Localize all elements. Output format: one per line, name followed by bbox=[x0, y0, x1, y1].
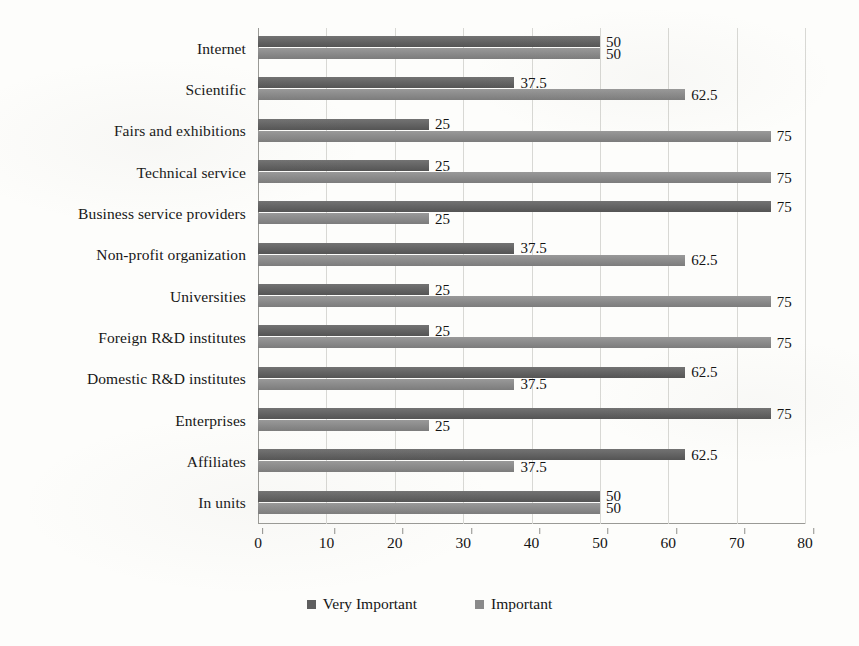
bar-row: Technical service2575 bbox=[258, 152, 805, 193]
bar-value-label: 25 bbox=[435, 417, 450, 434]
bar-value-label: 62.5 bbox=[691, 252, 717, 269]
bar-row: Fairs and exhibitions2575 bbox=[258, 111, 805, 152]
bar-shading bbox=[258, 172, 771, 183]
bar-value-label: 50 bbox=[606, 45, 621, 62]
bar-value-label: 75 bbox=[777, 405, 792, 422]
bar-very-important[interactable]: 37.5 bbox=[258, 77, 514, 88]
bar-value-label: 37.5 bbox=[520, 376, 546, 393]
bar-important[interactable]: 75 bbox=[258, 131, 771, 142]
bar-very-important[interactable]: 50 bbox=[258, 491, 600, 502]
plot-area: Internet5050Scientific37.562.5Fairs and … bbox=[258, 28, 805, 524]
x-tick-label: 40 bbox=[524, 534, 540, 552]
bar-very-important[interactable]: 37.5 bbox=[258, 243, 514, 254]
legend-label: Important bbox=[491, 595, 552, 613]
x-tick-mark bbox=[471, 528, 472, 534]
x-tick-label: 60 bbox=[661, 534, 677, 552]
x-tick-label: 80 bbox=[797, 534, 813, 552]
bar-shading bbox=[258, 243, 514, 254]
bar-shading bbox=[258, 491, 600, 502]
category-label: Affiliates bbox=[187, 453, 246, 471]
bar-shading bbox=[258, 325, 429, 336]
bar-important[interactable]: 75 bbox=[258, 172, 771, 183]
bar-value-label: 75 bbox=[777, 198, 792, 215]
x-tick-mark bbox=[813, 528, 814, 534]
category-label: Internet bbox=[197, 40, 246, 58]
bar-shading bbox=[258, 77, 514, 88]
bar-shading bbox=[258, 131, 771, 142]
bar-very-important[interactable]: 25 bbox=[258, 284, 429, 295]
bar-shading bbox=[258, 119, 429, 130]
bar-important[interactable]: 37.5 bbox=[258, 379, 514, 390]
bar-very-important[interactable]: 75 bbox=[258, 201, 771, 212]
x-tick-mark bbox=[403, 528, 404, 534]
bar-shading bbox=[258, 201, 771, 212]
bar-row: In units5050 bbox=[258, 483, 805, 524]
category-label: Domestic R&D institutes bbox=[87, 370, 246, 388]
bar-row: Scientific37.562.5 bbox=[258, 69, 805, 110]
category-label: Non-profit organization bbox=[96, 246, 246, 264]
bar-row: Foreign R&D institutes2575 bbox=[258, 317, 805, 358]
bar-value-label: 50 bbox=[606, 500, 621, 517]
x-tick-label: 20 bbox=[387, 534, 403, 552]
category-label: Scientific bbox=[186, 81, 246, 99]
chart-legend: Very ImportantImportant bbox=[0, 595, 859, 613]
bar-shading bbox=[258, 367, 685, 378]
category-label: Fairs and exhibitions bbox=[114, 122, 246, 140]
x-tick-label: 10 bbox=[319, 534, 335, 552]
bar-value-label: 75 bbox=[777, 334, 792, 351]
bar-important[interactable]: 25 bbox=[258, 420, 429, 431]
bar-very-important[interactable]: 50 bbox=[258, 36, 600, 47]
category-label: Enterprises bbox=[175, 412, 246, 430]
bar-important[interactable]: 75 bbox=[258, 337, 771, 348]
bar-row: Enterprises7525 bbox=[258, 400, 805, 441]
x-tick-mark bbox=[539, 528, 540, 534]
bar-value-label: 62.5 bbox=[691, 446, 717, 463]
bar-shading bbox=[258, 461, 514, 472]
legend-swatch-icon bbox=[307, 600, 316, 609]
bar-important[interactable]: 75 bbox=[258, 296, 771, 307]
category-label: Foreign R&D institutes bbox=[98, 329, 246, 347]
bar-value-label: 62.5 bbox=[691, 364, 717, 381]
bar-row: Non-profit organization37.562.5 bbox=[258, 235, 805, 276]
bar-important[interactable]: 62.5 bbox=[258, 89, 685, 100]
category-label: Technical service bbox=[137, 164, 246, 182]
bar-shading bbox=[258, 408, 771, 419]
bar-shading bbox=[258, 36, 600, 47]
bar-shading bbox=[258, 379, 514, 390]
bar-very-important[interactable]: 62.5 bbox=[258, 449, 685, 460]
bar-row: Affiliates62.537.5 bbox=[258, 441, 805, 482]
legend-item-very-important[interactable]: Very Important bbox=[307, 595, 417, 613]
bar-row: Domestic R&D institutes62.537.5 bbox=[258, 359, 805, 400]
x-tick-mark bbox=[676, 528, 677, 534]
bar-important[interactable]: 37.5 bbox=[258, 461, 514, 472]
bar-value-label: 25 bbox=[435, 210, 450, 227]
x-tick-mark bbox=[262, 528, 263, 534]
bar-important[interactable]: 62.5 bbox=[258, 255, 685, 266]
bar-value-label: 75 bbox=[777, 169, 792, 186]
bar-shading bbox=[258, 449, 685, 460]
bar-important[interactable]: 50 bbox=[258, 48, 600, 59]
bar-value-label: 75 bbox=[777, 128, 792, 145]
x-tick-mark bbox=[608, 528, 609, 534]
bar-shading bbox=[258, 48, 600, 59]
bar-important[interactable]: 25 bbox=[258, 213, 429, 224]
bar-shading bbox=[258, 503, 600, 514]
bar-value-label: 62.5 bbox=[691, 86, 717, 103]
bar-shading bbox=[258, 213, 429, 224]
bar-important[interactable]: 50 bbox=[258, 503, 600, 514]
bar-very-important[interactable]: 25 bbox=[258, 119, 429, 130]
bar-very-important[interactable]: 25 bbox=[258, 160, 429, 171]
bar-shading bbox=[258, 89, 685, 100]
legend-swatch-icon bbox=[475, 600, 484, 609]
x-tick-label: 70 bbox=[729, 534, 745, 552]
legend-item-important[interactable]: Important bbox=[475, 595, 552, 613]
bar-very-important[interactable]: 75 bbox=[258, 408, 771, 419]
category-label: Universities bbox=[170, 288, 246, 306]
bar-row: Universities2575 bbox=[258, 276, 805, 317]
bar-very-important[interactable]: 25 bbox=[258, 325, 429, 336]
bar-value-label: 37.5 bbox=[520, 458, 546, 475]
x-tick-label: 50 bbox=[592, 534, 608, 552]
bar-very-important[interactable]: 62.5 bbox=[258, 367, 685, 378]
bar-shading bbox=[258, 296, 771, 307]
bar-chart: Internet5050Scientific37.562.5Fairs and … bbox=[0, 0, 859, 646]
